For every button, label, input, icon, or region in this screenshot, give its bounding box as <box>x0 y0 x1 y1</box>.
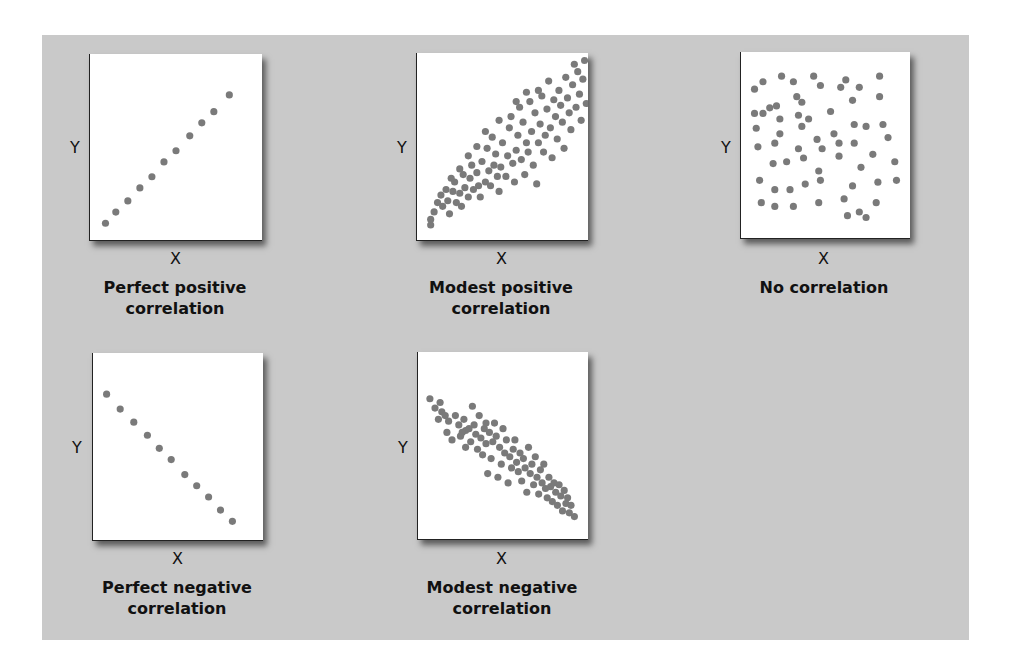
data-point <box>521 171 528 178</box>
data-point <box>459 429 466 436</box>
data-point <box>837 84 844 91</box>
data-point <box>817 82 824 89</box>
data-point <box>856 208 863 215</box>
data-point <box>462 444 469 451</box>
caption-modest-negative: Modest negative correlation <box>382 577 622 619</box>
data-point <box>523 89 530 96</box>
caption-line-2: correlation <box>381 298 621 319</box>
data-point <box>484 145 491 152</box>
data-point <box>502 173 509 180</box>
data-point <box>508 464 515 471</box>
data-point <box>771 186 778 193</box>
data-point <box>487 182 494 189</box>
data-point <box>474 446 481 453</box>
data-point <box>770 160 777 167</box>
data-point <box>790 203 797 210</box>
data-point <box>130 419 137 426</box>
data-point <box>844 212 851 219</box>
data-point <box>103 391 110 398</box>
caption-line-1: Perfect negative <box>57 577 297 598</box>
data-point <box>477 193 484 200</box>
data-point <box>525 444 532 451</box>
data-point <box>531 109 538 116</box>
data-point <box>798 123 805 130</box>
data-point <box>527 470 534 477</box>
data-point <box>452 412 459 419</box>
data-point <box>571 513 578 520</box>
data-point <box>466 175 473 182</box>
data-point <box>540 461 547 468</box>
data-point <box>467 438 474 445</box>
data-point <box>490 162 497 169</box>
data-point <box>835 153 842 160</box>
data-point <box>535 491 542 498</box>
data-point <box>496 117 503 124</box>
scatter-plot-no-correlation <box>740 52 910 239</box>
data-point <box>499 425 506 432</box>
data-point <box>798 99 805 106</box>
data-point <box>827 108 834 115</box>
data-point <box>869 151 876 158</box>
data-point <box>842 76 849 83</box>
data-point <box>569 81 576 88</box>
caption-perfect-negative: Perfect negative correlation <box>57 577 297 619</box>
data-point <box>759 78 766 85</box>
data-point <box>795 145 802 152</box>
data-point <box>476 412 483 419</box>
caption-line-2: correlation <box>55 298 295 319</box>
data-point <box>468 162 475 169</box>
data-point <box>144 432 151 439</box>
data-point <box>815 167 822 174</box>
data-point <box>756 177 763 184</box>
data-point <box>556 481 563 488</box>
data-point <box>549 154 556 161</box>
data-point <box>475 182 482 189</box>
data-point <box>835 140 842 147</box>
data-point <box>530 481 537 488</box>
data-point <box>561 487 568 494</box>
data-point <box>504 152 511 159</box>
data-point <box>773 102 780 109</box>
data-point <box>841 195 848 202</box>
data-point <box>795 112 802 119</box>
data-point <box>518 156 525 163</box>
data-point <box>456 165 463 172</box>
data-point <box>489 134 496 141</box>
data-point <box>469 403 476 410</box>
data-point <box>448 436 455 443</box>
data-point <box>461 184 468 191</box>
data-point <box>856 84 863 91</box>
data-point <box>537 120 544 127</box>
data-point <box>503 436 510 443</box>
data-point <box>776 115 783 122</box>
data-point <box>217 506 224 513</box>
data-point <box>513 459 520 466</box>
data-point <box>465 152 472 159</box>
scatter-plot-perfect-negative <box>92 353 263 541</box>
data-point <box>766 104 773 111</box>
data-point <box>876 73 883 80</box>
data-point <box>783 158 790 165</box>
data-point <box>800 154 807 161</box>
data-point <box>449 188 456 195</box>
data-point <box>566 109 573 116</box>
data-point <box>579 76 586 83</box>
scatter-plot-perfect-positive <box>89 54 262 241</box>
caption-line-2: correlation <box>382 598 622 619</box>
data-point <box>496 188 503 195</box>
data-point <box>526 98 533 105</box>
caption-line-1: Modest positive <box>381 277 621 298</box>
data-point <box>479 451 486 458</box>
data-point <box>465 193 472 200</box>
data-point <box>576 91 583 98</box>
data-point <box>431 208 438 215</box>
data-point <box>771 140 778 147</box>
data-point <box>759 110 766 117</box>
data-point <box>813 136 820 143</box>
data-point <box>533 180 540 187</box>
data-point <box>758 199 765 206</box>
caption-line-2: correlation <box>57 598 297 619</box>
data-point <box>478 158 485 165</box>
data-point <box>156 445 163 452</box>
scatter-points <box>93 353 263 540</box>
